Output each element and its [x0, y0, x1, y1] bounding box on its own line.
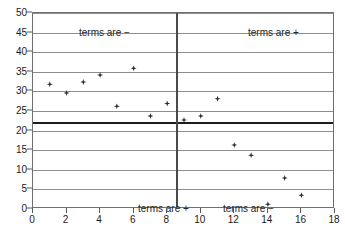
x-tick-label: 4	[96, 214, 102, 225]
data-point	[131, 65, 137, 71]
x-tick-label: 8	[163, 214, 169, 225]
x-tick-label: 12	[228, 214, 239, 225]
x-tick-mark	[99, 208, 100, 213]
data-point	[298, 192, 304, 198]
data-point	[164, 101, 170, 107]
y-tick-mark	[27, 12, 32, 13]
x-tick-label: 14	[261, 214, 272, 225]
data-point	[114, 103, 120, 109]
gridline	[33, 13, 333, 14]
x-tick-mark	[300, 208, 301, 213]
gridline	[33, 111, 333, 112]
x-tick-mark	[66, 208, 67, 213]
y-tick-label: 50	[1, 7, 27, 18]
x-tick-mark	[233, 208, 234, 213]
y-tick-mark	[27, 168, 32, 169]
gridline	[33, 189, 333, 190]
gridline	[33, 72, 333, 73]
gridline	[33, 150, 333, 151]
gridline	[33, 52, 333, 53]
data-point	[198, 113, 204, 119]
y-tick-label: 15	[1, 144, 27, 155]
x-tick-mark	[166, 208, 167, 213]
annotation-top-left: terms are −	[79, 27, 130, 38]
x-tick-mark	[32, 208, 33, 213]
y-tick-label: 45	[1, 26, 27, 37]
y-tick-label: 35	[1, 65, 27, 76]
x-tick-mark	[133, 208, 134, 213]
y-tick-mark	[27, 51, 32, 52]
plot-area: terms are − terms are + terms are + term…	[32, 12, 334, 208]
gridline	[33, 131, 333, 132]
y-tick-label: 25	[1, 105, 27, 116]
x-tick-label: 18	[328, 214, 339, 225]
x-tick-label: 0	[29, 214, 35, 225]
y-tick-label: 0	[1, 203, 27, 214]
y-tick-label: 20	[1, 124, 27, 135]
data-point	[231, 142, 237, 148]
y-tick-mark	[27, 90, 32, 91]
mean-reference-line	[33, 122, 333, 124]
median-divider-line	[176, 13, 178, 207]
y-tick-label: 40	[1, 46, 27, 57]
y-tick-mark	[27, 70, 32, 71]
x-tick-mark	[200, 208, 201, 213]
y-tick-mark	[27, 110, 32, 111]
x-tick-mark	[267, 208, 268, 213]
data-point	[215, 96, 221, 102]
x-tick-label: 2	[63, 214, 69, 225]
y-tick-mark	[27, 149, 32, 150]
x-tick-label: 6	[130, 214, 136, 225]
gridline	[33, 91, 333, 92]
data-point	[80, 79, 86, 85]
x-tick-mark	[334, 208, 335, 213]
annotation-bottom-left: terms are +	[138, 203, 189, 214]
y-tick-label: 5	[1, 183, 27, 194]
data-point	[97, 72, 103, 78]
data-point	[248, 152, 254, 158]
data-point	[147, 113, 153, 119]
x-tick-label: 16	[295, 214, 306, 225]
y-tick-label: 30	[1, 85, 27, 96]
gridline	[33, 170, 333, 171]
y-tick-mark	[27, 129, 32, 130]
y-tick-mark	[27, 188, 32, 189]
data-point	[282, 175, 288, 181]
data-point	[47, 81, 53, 87]
scatter-plot-figure: terms are − terms are + terms are + term…	[0, 0, 345, 244]
annotation-top-right: terms are +	[248, 27, 299, 38]
y-tick-label: 10	[1, 163, 27, 174]
x-tick-label: 10	[194, 214, 205, 225]
y-tick-mark	[27, 31, 32, 32]
